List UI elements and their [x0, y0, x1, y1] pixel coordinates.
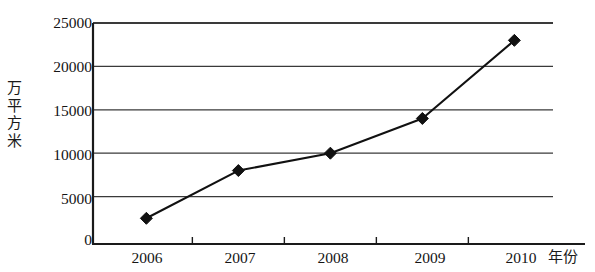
gridlines [93, 23, 553, 197]
data-point-2007 [232, 165, 244, 177]
x-axis-tick-marks [192, 237, 468, 244]
data-line [146, 40, 514, 218]
line-chart-figure: 万 平 方 米 0 5000 10000 15000 20000 25000 2… [0, 0, 595, 272]
data-point-2008 [324, 147, 336, 159]
axis-lines [92, 23, 585, 244]
data-point-2006 [140, 212, 152, 224]
plot-area [0, 0, 595, 272]
data-point-markers [140, 34, 520, 224]
